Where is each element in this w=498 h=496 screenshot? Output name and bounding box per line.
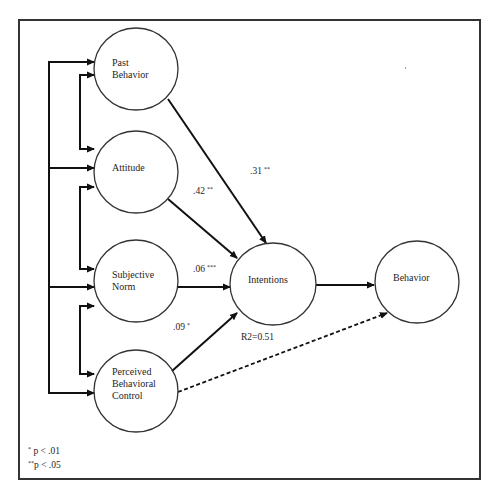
node-label-attitude: Attitude <box>112 162 145 174</box>
r-squared-label: R2=0.51 <box>241 332 274 342</box>
node-label-behavior: Behavior <box>393 272 430 284</box>
legend-row-1: * p < .01 <box>28 443 61 457</box>
significance-legend: * p < .01**p < .05 <box>28 443 61 471</box>
node-label-pbc: Perceived Behavioral Control <box>112 366 156 402</box>
coefficient-pbc: .09* <box>173 322 190 332</box>
arrow-pbc-to-behavior <box>178 313 387 392</box>
node-label-subjective-norm: Subjective Norm <box>112 269 154 293</box>
node-label-past-behavior: Past Behavior <box>112 57 149 81</box>
correlation-brackets <box>48 62 94 393</box>
coefficient-past-behavior: .31** <box>250 166 270 176</box>
coefficient-subjective-norm: .06*** <box>193 264 216 274</box>
path-arrows <box>168 99 387 392</box>
legend-row-2: **p < .05 <box>28 457 61 471</box>
arrow-attitude-to-intentions <box>168 199 237 258</box>
coefficient-attitude: .42** <box>193 186 213 196</box>
path-diagram <box>0 0 498 496</box>
node-label-intentions: Intentions <box>248 274 288 286</box>
